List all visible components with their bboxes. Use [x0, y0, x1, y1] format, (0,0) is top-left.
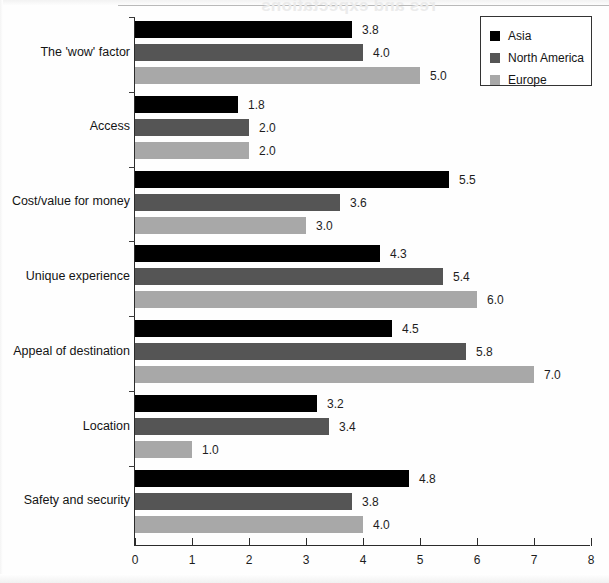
bar-value-label: 3.2: [327, 397, 344, 411]
bar-na: [135, 493, 352, 510]
legend-item-na: North America: [490, 51, 584, 65]
x-axis-tick: [192, 538, 193, 546]
bar-na: [135, 343, 466, 360]
chart-page: res and expectations 012345678The 'wow' …: [0, 0, 609, 583]
bar-na: [135, 418, 329, 435]
category-label: Appeal of destination: [13, 344, 130, 358]
bar-value-label: 3.4: [339, 420, 356, 434]
category-label: The 'wow' factor: [40, 45, 130, 59]
legend-label: North America: [508, 51, 584, 65]
bar-value-label: 5.0: [430, 69, 447, 83]
x-axis-tick-label: 4: [360, 553, 367, 567]
bar-value-label: 1.8: [248, 98, 265, 112]
x-axis-tick-label: 2: [246, 553, 253, 567]
legend-item-asia: Asia: [490, 29, 531, 43]
bar-europe: [135, 217, 306, 234]
x-axis-tick-label: 1: [189, 553, 196, 567]
x-axis-tick: [249, 538, 250, 546]
legend-swatch-icon: [490, 31, 500, 41]
legend-item-europe: Europe: [490, 73, 547, 87]
x-axis-tick: [591, 538, 592, 546]
bar-value-label: 3.6: [350, 196, 367, 210]
x-axis-tick: [534, 538, 535, 546]
bar-asia: [135, 96, 238, 113]
bar-asia: [135, 171, 449, 188]
y-axis-group-tick: [129, 466, 135, 467]
chart-legend: AsiaNorth AmericaEurope: [480, 16, 592, 86]
y-axis-group-tick: [129, 316, 135, 317]
bar-europe: [135, 516, 363, 533]
x-axis-tick: [477, 538, 478, 546]
legend-swatch-icon: [490, 75, 500, 85]
bar-value-label: 6.0: [487, 293, 504, 307]
bar-value-label: 4.8: [419, 472, 436, 486]
legend-label: Europe: [508, 73, 547, 87]
category-label: Access: [90, 119, 130, 133]
bar-na: [135, 268, 443, 285]
bar-value-label: 3.8: [362, 23, 379, 37]
bar-value-label: 5.8: [476, 345, 493, 359]
x-axis-tick-label: 0: [132, 553, 139, 567]
y-axis-group-tick: [129, 167, 135, 168]
category-label: Unique experience: [26, 269, 130, 283]
bar-asia: [135, 395, 317, 412]
bar-value-label: 1.0: [202, 443, 219, 457]
bar-value-label: 4.0: [373, 518, 390, 532]
category-label: Cost/value for money: [12, 194, 130, 208]
x-axis-tick-label: 3: [303, 553, 310, 567]
bar-chart-plot: 012345678The 'wow' factor3.84.05.0Access…: [0, 0, 609, 583]
bar-europe: [135, 366, 534, 383]
y-axis-group-tick: [129, 92, 135, 93]
bar-europe: [135, 291, 477, 308]
bar-europe: [135, 142, 249, 159]
bar-value-label: 5.5: [459, 173, 476, 187]
bar-value-label: 4.5: [402, 322, 419, 336]
bar-na: [135, 44, 363, 61]
category-label: Location: [83, 419, 130, 433]
x-axis-tick: [306, 538, 307, 546]
bar-asia: [135, 245, 380, 262]
bar-value-label: 3.0: [316, 219, 333, 233]
bar-asia: [135, 470, 409, 487]
bar-asia: [135, 320, 392, 337]
category-label: Safety and security: [24, 493, 130, 507]
bar-value-label: 2.0: [259, 121, 276, 135]
legend-label: Asia: [508, 29, 531, 43]
bar-value-label: 4.0: [373, 46, 390, 60]
x-axis-line: [134, 545, 590, 546]
bar-value-label: 5.4: [453, 270, 470, 284]
x-axis-tick: [420, 538, 421, 546]
x-axis-tick-label: 7: [531, 553, 538, 567]
x-axis-tick-label: 6: [474, 553, 481, 567]
bar-value-label: 2.0: [259, 144, 276, 158]
legend-swatch-icon: [490, 53, 500, 63]
bar-asia: [135, 21, 352, 38]
x-axis-tick: [363, 538, 364, 546]
y-axis-group-tick: [129, 391, 135, 392]
bar-value-label: 3.8: [362, 495, 379, 509]
x-axis-tick-label: 8: [588, 553, 595, 567]
x-axis-tick-label: 5: [417, 553, 424, 567]
bar-value-label: 4.3: [390, 247, 407, 261]
x-axis-tick: [135, 538, 136, 546]
bar-value-label: 7.0: [544, 368, 561, 382]
y-axis-group-tick: [129, 241, 135, 242]
bar-na: [135, 194, 340, 211]
y-axis-group-tick: [129, 17, 135, 18]
bar-europe: [135, 441, 192, 458]
bar-na: [135, 119, 249, 136]
bar-europe: [135, 67, 420, 84]
